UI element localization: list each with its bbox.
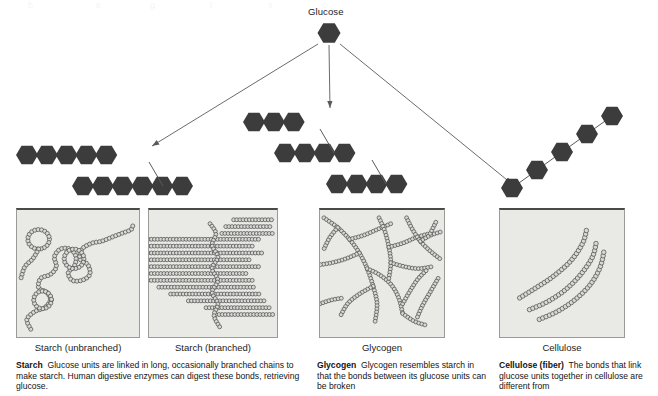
micrograph-panel-glycogen: [319, 208, 445, 338]
micrograph-illustration-cellulose: [500, 210, 624, 337]
micrograph-panel-starch-branched: [148, 208, 278, 338]
glycogen-hexagon: [366, 175, 388, 194]
figure-canvas: begtso Glucose Starch (unbranched)Starch…: [0, 0, 658, 396]
glycogen-hexagon: [283, 113, 305, 132]
starch-caption-lead: Starch: [16, 360, 43, 370]
cellulose-hexagon: [551, 143, 573, 162]
glycogen-hexagon: [326, 175, 348, 194]
micrograph-panel-cellulose: [499, 208, 625, 338]
starch-hexagon: [112, 177, 134, 196]
starch-hexagon: [56, 146, 78, 165]
cellulose-caption-lead: Cellulose (fiber): [499, 360, 564, 370]
glycogen-hexagon: [294, 144, 316, 163]
glycogen-hexagon: [263, 113, 285, 132]
starch-hexagon: [16, 146, 38, 165]
glycogen-caption-lead: Glycogen: [317, 360, 356, 370]
starch-caption: Starch Glucose units are linked in long,…: [16, 360, 304, 392]
starch-hexagon: [92, 177, 114, 196]
starch-hexagon: [72, 177, 94, 196]
glycogen-hexagon: [385, 175, 407, 194]
glycogen-hexagon: [346, 175, 368, 194]
starch-hexagon: [171, 177, 193, 196]
starch-caption-body: Glucose units are linked in long, occasi…: [16, 360, 299, 391]
cellulose-hexagon: [501, 179, 523, 198]
cellulose-caption: Cellulose (fiber) The bonds that link gl…: [499, 360, 657, 392]
cellulose-hexagon: [601, 107, 623, 126]
micrograph-panel-starch-unbranched: [16, 208, 140, 338]
starch-hexagon: [36, 146, 58, 165]
source-glucose-hexagon: [318, 23, 341, 43]
panel-label-cellulose: Cellulose: [499, 342, 625, 353]
cellulose-hexagon: [526, 161, 548, 180]
glycogen-hexagon: [333, 144, 355, 163]
micrograph-illustration-starch-branched: [149, 210, 277, 337]
starch-hexagon: [131, 177, 153, 196]
glycogen-hexagon: [243, 113, 265, 132]
panel-label-starch-unbranched: Starch (unbranched): [16, 342, 140, 353]
micrograph-illustration-starch-unbranched: [17, 210, 139, 337]
panel-label-glycogen: Glycogen: [319, 342, 445, 353]
arrow-to-glycogen: [329, 45, 330, 108]
glycogen-hexagon: [314, 144, 336, 163]
glucose-label: Glucose: [308, 6, 344, 17]
panel-label-starch-branched: Starch (branched): [148, 342, 278, 353]
glycogen-hexagon: [274, 144, 296, 163]
arrow-to-cellulose: [340, 44, 512, 184]
starch-hexagon: [151, 177, 173, 196]
starch-hexagon: [95, 146, 117, 165]
starch-hexagon: [75, 146, 97, 165]
micrograph-illustration-glycogen: [320, 210, 444, 337]
cellulose-hexagon: [576, 125, 598, 144]
glycogen-caption: Glycogen Glycogen resembles starch in th…: [317, 360, 489, 392]
